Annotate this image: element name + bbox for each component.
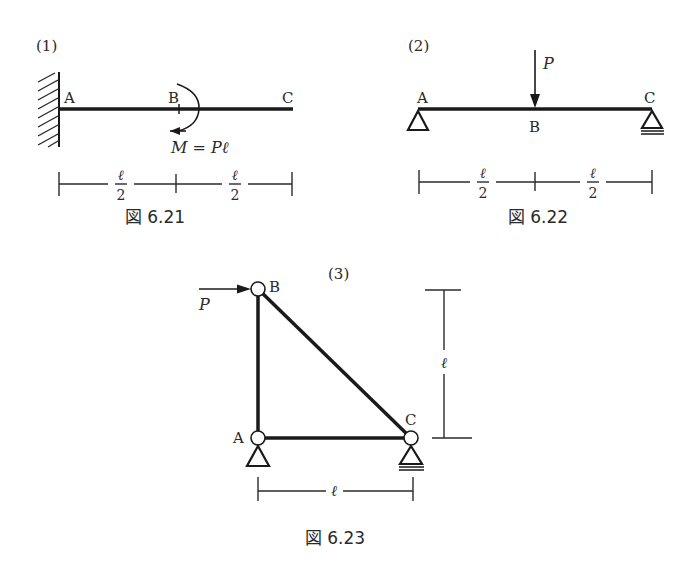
joint-b-icon — [251, 282, 265, 296]
caption-fig-6-21: 図 6.21 — [125, 207, 185, 227]
pin-support-icon — [247, 446, 269, 466]
problem-label-1: (1) — [36, 37, 57, 55]
point-load-arrow-icon — [530, 50, 540, 108]
node-label-c: C — [282, 89, 293, 107]
node-label-c: C — [405, 411, 416, 429]
dim-2-den-a: 2 — [479, 185, 488, 201]
dim-1-den-a: 2 — [117, 187, 126, 203]
horizontal-load-arrow-icon — [199, 285, 251, 294]
dim-2-num-a: ℓ — [480, 165, 486, 181]
member-bc — [258, 289, 411, 438]
joint-a-icon — [251, 431, 265, 445]
fixed-wall-support-icon — [38, 72, 59, 147]
node-label-b: B — [168, 89, 179, 107]
node-label-c: C — [644, 89, 655, 107]
dimension-line-vertical — [425, 290, 472, 438]
diagram-canvas: (1) A B C M = Pℓ — [0, 0, 691, 573]
dim-1-den-b: 2 — [231, 187, 240, 203]
dim-vertical-label: ℓ — [441, 354, 447, 372]
load-label-p: P — [542, 54, 554, 73]
figure-6-21: (1) A B C M = Pℓ — [36, 37, 293, 227]
dim-2-num-b: ℓ — [590, 165, 596, 181]
roller-support-icon — [399, 446, 424, 470]
figure-6-23: (3) P B A C ℓ — [198, 265, 472, 548]
moment-label: M = Pℓ — [170, 138, 229, 157]
pin-support-icon — [408, 111, 428, 130]
caption-fig-6-22: 図 6.22 — [508, 207, 568, 227]
node-label-a: A — [63, 89, 75, 107]
roller-support-icon — [641, 111, 664, 134]
dimension-line-1 — [59, 168, 292, 202]
dim-1-num-b: ℓ — [232, 167, 238, 183]
node-label-a: A — [416, 89, 428, 107]
caption-fig-6-23: 図 6.23 — [305, 528, 365, 548]
node-label-a: A — [232, 429, 244, 447]
node-label-b: B — [269, 278, 280, 296]
dim-2-den-b: 2 — [589, 185, 598, 201]
problem-label-2: (2) — [408, 37, 429, 55]
dim-horizontal-label: ℓ — [331, 482, 337, 500]
joint-c-icon — [404, 431, 418, 445]
dim-1-num-a: ℓ — [118, 167, 124, 183]
dimension-line-2 — [419, 166, 652, 200]
load-label-p: P — [198, 295, 210, 314]
node-label-b: B — [529, 118, 540, 136]
problem-label-3: (3) — [328, 265, 349, 283]
figure-6-22: (2) P A B C ℓ 2 — [408, 37, 664, 227]
